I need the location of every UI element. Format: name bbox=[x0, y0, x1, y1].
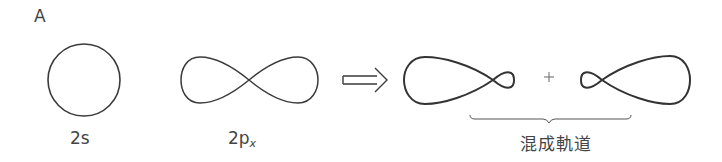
plus-icon bbox=[544, 72, 554, 82]
panel-label: A bbox=[34, 6, 46, 26]
orbital-diagram bbox=[0, 0, 722, 162]
s-orbital-label: 2s bbox=[70, 128, 90, 148]
p-orbital-label: 2px bbox=[228, 128, 256, 150]
p-orbital-figure-eight bbox=[181, 57, 318, 103]
hybrid-orbital-label: 混成軌道 bbox=[520, 130, 592, 155]
double-arrow-icon bbox=[343, 68, 387, 92]
hybrid-orbital-2 bbox=[581, 56, 690, 104]
p-orbital-label-subscript: x bbox=[250, 137, 257, 150]
hybrid-orbital-1 bbox=[404, 57, 514, 104]
p-orbital-label-main: 2p bbox=[228, 128, 250, 148]
hybrid-brace bbox=[470, 115, 631, 123]
s-orbital-circle bbox=[48, 44, 120, 116]
